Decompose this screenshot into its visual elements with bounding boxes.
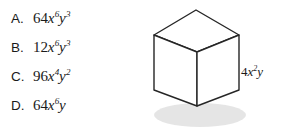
variable-x-d: x — [48, 97, 55, 113]
cube-figure: 4x2y — [140, 0, 284, 139]
coefficient-a: 64 — [33, 10, 48, 26]
answer-choice-list: A. 64x6y3 B. 12x6y3 C. 96x4y2 D. 64x6y — [0, 0, 140, 139]
coefficient-d: 64 — [33, 97, 48, 113]
question-figure-page: A. 64x6y3 B. 12x6y3 C. 96x4y2 D. 64x6y — [0, 0, 284, 139]
answer-choice-expression: 12x6y3 — [33, 39, 70, 56]
cube-label-variable-y: y — [257, 64, 263, 79]
answer-choice-expression: 64x6y3 — [33, 10, 70, 27]
variable-x-c: x — [48, 68, 55, 84]
variable-y-d: y — [59, 97, 66, 113]
exponent-y-a: 3 — [66, 9, 70, 19]
answer-choice-expression: 96x4y2 — [33, 68, 70, 85]
answer-choice-letter: D. — [11, 98, 33, 113]
cube-edge-label: 4x2y — [241, 64, 263, 80]
answer-choice-letter: C. — [11, 69, 33, 84]
answer-choice-d[interactable]: D. 64x6y — [11, 97, 66, 119]
variable-y-c: y — [59, 68, 66, 84]
answer-choice-letter: B. — [11, 40, 33, 55]
variable-y-b: y — [59, 39, 66, 55]
answer-choice-expression: 64x6y — [33, 97, 66, 114]
variable-y-a: y — [59, 10, 66, 26]
variable-x-b: x — [48, 39, 55, 55]
answer-choice-letter: A. — [11, 11, 33, 26]
variable-x-a: x — [48, 10, 55, 26]
answer-choice-c[interactable]: C. 96x4y2 — [11, 68, 70, 90]
answer-choice-a[interactable]: A. 64x6y3 — [11, 10, 70, 32]
coefficient-c: 96 — [33, 68, 48, 84]
exponent-y-c: 2 — [66, 67, 70, 77]
coefficient-b: 12 — [33, 39, 48, 55]
answer-choice-b[interactable]: B. 12x6y3 — [11, 39, 70, 61]
exponent-y-b: 3 — [66, 38, 70, 48]
cube-shadow — [154, 103, 246, 127]
